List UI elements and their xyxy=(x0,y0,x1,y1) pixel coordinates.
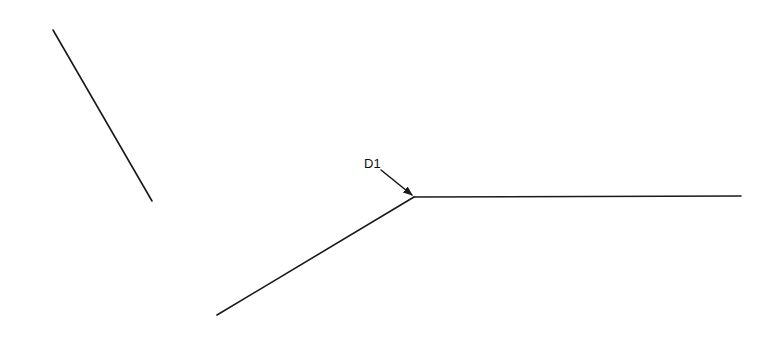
callout-label-d1: D1 xyxy=(364,156,381,171)
lower-left-branch xyxy=(217,197,414,315)
diagram-canvas: D1 xyxy=(0,0,780,340)
callout-leader-arrow xyxy=(381,170,412,195)
isolated-segment xyxy=(53,30,152,201)
horizontal-branch xyxy=(414,196,741,197)
